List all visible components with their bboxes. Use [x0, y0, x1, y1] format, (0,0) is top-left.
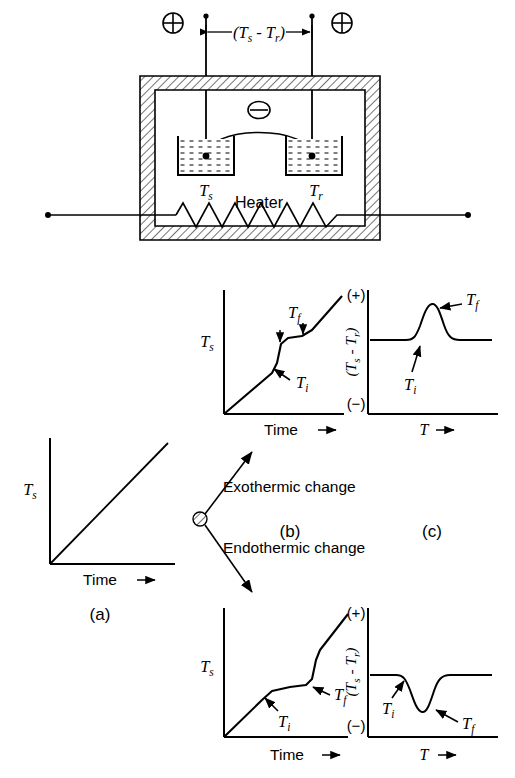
- terminal-negative-icon: [248, 102, 270, 119]
- panel-b-exo-x-label: Time: [264, 421, 298, 438]
- panel-a-caption: (a): [90, 605, 111, 624]
- panel-c-exo-minus-label: (−): [347, 395, 366, 412]
- panel-b-endo-tf-arrow: [313, 687, 330, 695]
- heater-terminal-left: [45, 212, 51, 218]
- panel-c-exo-tf-label: Tf: [466, 290, 480, 312]
- panel-a-x-label: Time: [83, 571, 117, 588]
- chart-panel-b-exothermic: Ts Time Ti Tf (b): [200, 290, 344, 541]
- panel-c-endo-tf-arrow: [436, 710, 458, 722]
- panel-b-exo-y-label: Ts: [200, 332, 214, 353]
- chart-panel-b-endothermic: Ts Time Ti Tf: [200, 608, 348, 763]
- chart-panel-a: Ts Time (a): [23, 438, 175, 624]
- reference-thermocouple-bead: [309, 153, 316, 160]
- panel-b-exo-tf-label: Tf: [288, 303, 302, 325]
- terminal-positive-left-icon: [163, 13, 183, 33]
- endothermic-branch-arrow: [205, 525, 252, 592]
- sample-thermocouple-bead: [203, 153, 210, 160]
- heater-terminal-right: [465, 212, 471, 218]
- panel-a-y-label: Ts: [23, 480, 37, 501]
- panel-c-exo-tf-arrow: [440, 304, 462, 308]
- heater-label: Heater: [235, 194, 284, 211]
- panel-c-endo-ti-arrow: [392, 681, 404, 698]
- panel-c-endo-tf-label: Tf: [462, 714, 476, 736]
- sample-temperature-label: Ts: [199, 181, 213, 202]
- sample-crucible: [178, 136, 234, 175]
- panel-b-caption: (b): [280, 522, 301, 541]
- differential-temperature-label: (Ts - Tr): [233, 23, 285, 44]
- dta-figure: (Ts - Tr) Ts Tr Heater: [0, 0, 515, 778]
- branch-node-icon: [193, 512, 207, 526]
- reference-crucible: [286, 136, 342, 175]
- panel-b-endo-ti-arrow: [265, 698, 278, 711]
- exothermic-branch-label: Exothermic change: [223, 478, 356, 495]
- panel-c-exo-x-label: T: [420, 421, 430, 438]
- panel-c-endo-x-label: T: [420, 746, 430, 763]
- panel-c-caption: (c): [422, 522, 442, 541]
- reference-temperature-label: Tr: [309, 181, 323, 202]
- panel-c-exo-y-label: (Ts - Tr): [342, 327, 362, 376]
- panel-c-endo-plus-label: (+): [347, 604, 366, 621]
- panel-c-endo-ti-label: Ti: [382, 699, 394, 720]
- panel-c-endo-y-label: (Ts - Tr): [342, 647, 362, 696]
- panel-c-exo-ti-label: Ti: [404, 375, 416, 396]
- panel-b-exo-ti-arrow: [274, 369, 290, 380]
- terminal-positive-right-icon: [332, 13, 352, 33]
- panel-c-endo-minus-label: (−): [347, 717, 366, 734]
- endothermic-branch-label: Endothermic change: [223, 539, 365, 556]
- chart-panel-c-endothermic: (Ts - Tr) (+) (−) T Ti Tf: [342, 604, 498, 763]
- apparatus-diagram: (Ts - Tr) Ts Tr Heater: [45, 13, 471, 240]
- panel-c-exo-plus-label: (+): [347, 286, 366, 303]
- panel-c-exo-ti-arrow: [412, 346, 420, 372]
- panel-b-exo-ti-label: Ti: [296, 373, 308, 394]
- panel-a-curve: [50, 443, 168, 564]
- panel-c-exo-curve: [370, 304, 492, 340]
- panel-b-endo-y-label: Ts: [200, 657, 214, 678]
- chart-panel-c-exothermic: (Ts - Tr) (+) (−) T Ti Tf (c): [342, 286, 498, 541]
- panel-b-exo-curve: [224, 296, 342, 414]
- panel-b-endo-x-label: Time: [270, 746, 304, 763]
- panel-b-endo-ti-label: Ti: [278, 712, 290, 733]
